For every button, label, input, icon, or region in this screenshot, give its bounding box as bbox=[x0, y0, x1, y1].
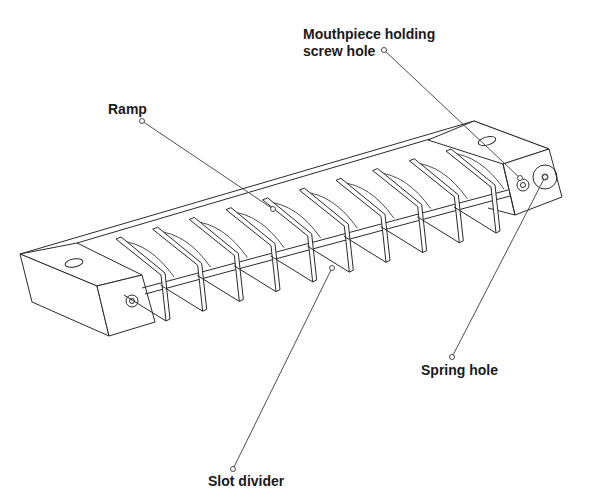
label-ramp: Ramp bbox=[108, 101, 147, 118]
label-spring-hole: Spring hole bbox=[421, 362, 498, 379]
comb-body bbox=[20, 121, 562, 336]
leader-lines bbox=[140, 48, 548, 472]
label-slot-divider: Slot divider bbox=[208, 473, 284, 490]
label-mouthpiece-screw-hole: Mouthpiece holding screw hole bbox=[303, 26, 435, 60]
comb-drawing bbox=[0, 0, 595, 501]
